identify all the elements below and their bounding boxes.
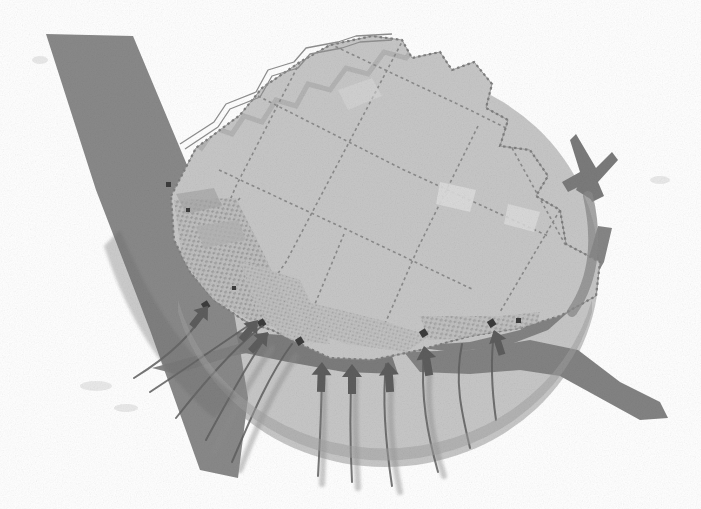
diagram-canvas: District Accessibility and Flow Diagram — [0, 0, 701, 509]
access-point-harbour — [516, 318, 521, 323]
access-point-mid-2 — [232, 286, 236, 290]
access-point-north-west — [166, 182, 171, 187]
urban-flow-map — [0, 0, 701, 509]
access-point-mid — [186, 208, 190, 212]
